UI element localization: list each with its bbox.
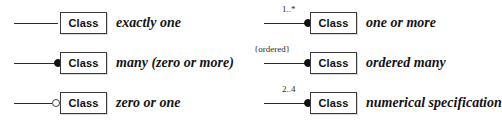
notation-group: Class — [12, 2, 108, 42]
association-line-icon — [14, 23, 58, 24]
class-box: Class — [310, 92, 357, 114]
association-line-icon — [264, 23, 308, 24]
notation-group: Class — [12, 42, 108, 82]
entry-description: ordered many — [366, 53, 446, 73]
notation-group: 2..4 Class — [262, 82, 358, 122]
entry-description: many (zero or more) — [116, 53, 234, 73]
notation-group: 1..* Class — [262, 2, 358, 42]
association-line-icon — [14, 103, 52, 104]
multiplicity-label: 1..* — [282, 4, 296, 14]
multiplicity-label: 2..4 — [282, 84, 296, 94]
entry-description: one or more — [366, 13, 436, 33]
notation-group: {ordered} Class — [262, 42, 358, 82]
class-box-label: Class — [311, 53, 356, 73]
association-line-icon — [14, 63, 58, 64]
entry-description: zero or one — [116, 93, 181, 113]
class-box-label: Class — [61, 93, 106, 113]
association-line-icon — [264, 103, 308, 104]
class-box-label: Class — [311, 93, 356, 113]
entry-description: exactly one — [116, 13, 181, 33]
class-box: Class — [60, 12, 107, 34]
multiplicity-label: {ordered} — [254, 44, 290, 54]
notation-group: Class — [12, 82, 108, 122]
entry-description: numerical specification — [366, 93, 502, 113]
association-line-icon — [264, 63, 308, 64]
hollow-circle-icon — [52, 99, 60, 107]
class-box: Class — [60, 52, 107, 74]
class-box: Class — [60, 92, 107, 114]
class-box-label: Class — [61, 13, 106, 33]
class-box: Class — [310, 52, 357, 74]
class-box-label: Class — [61, 53, 106, 73]
class-box-label: Class — [311, 13, 356, 33]
class-box: Class — [310, 12, 357, 34]
